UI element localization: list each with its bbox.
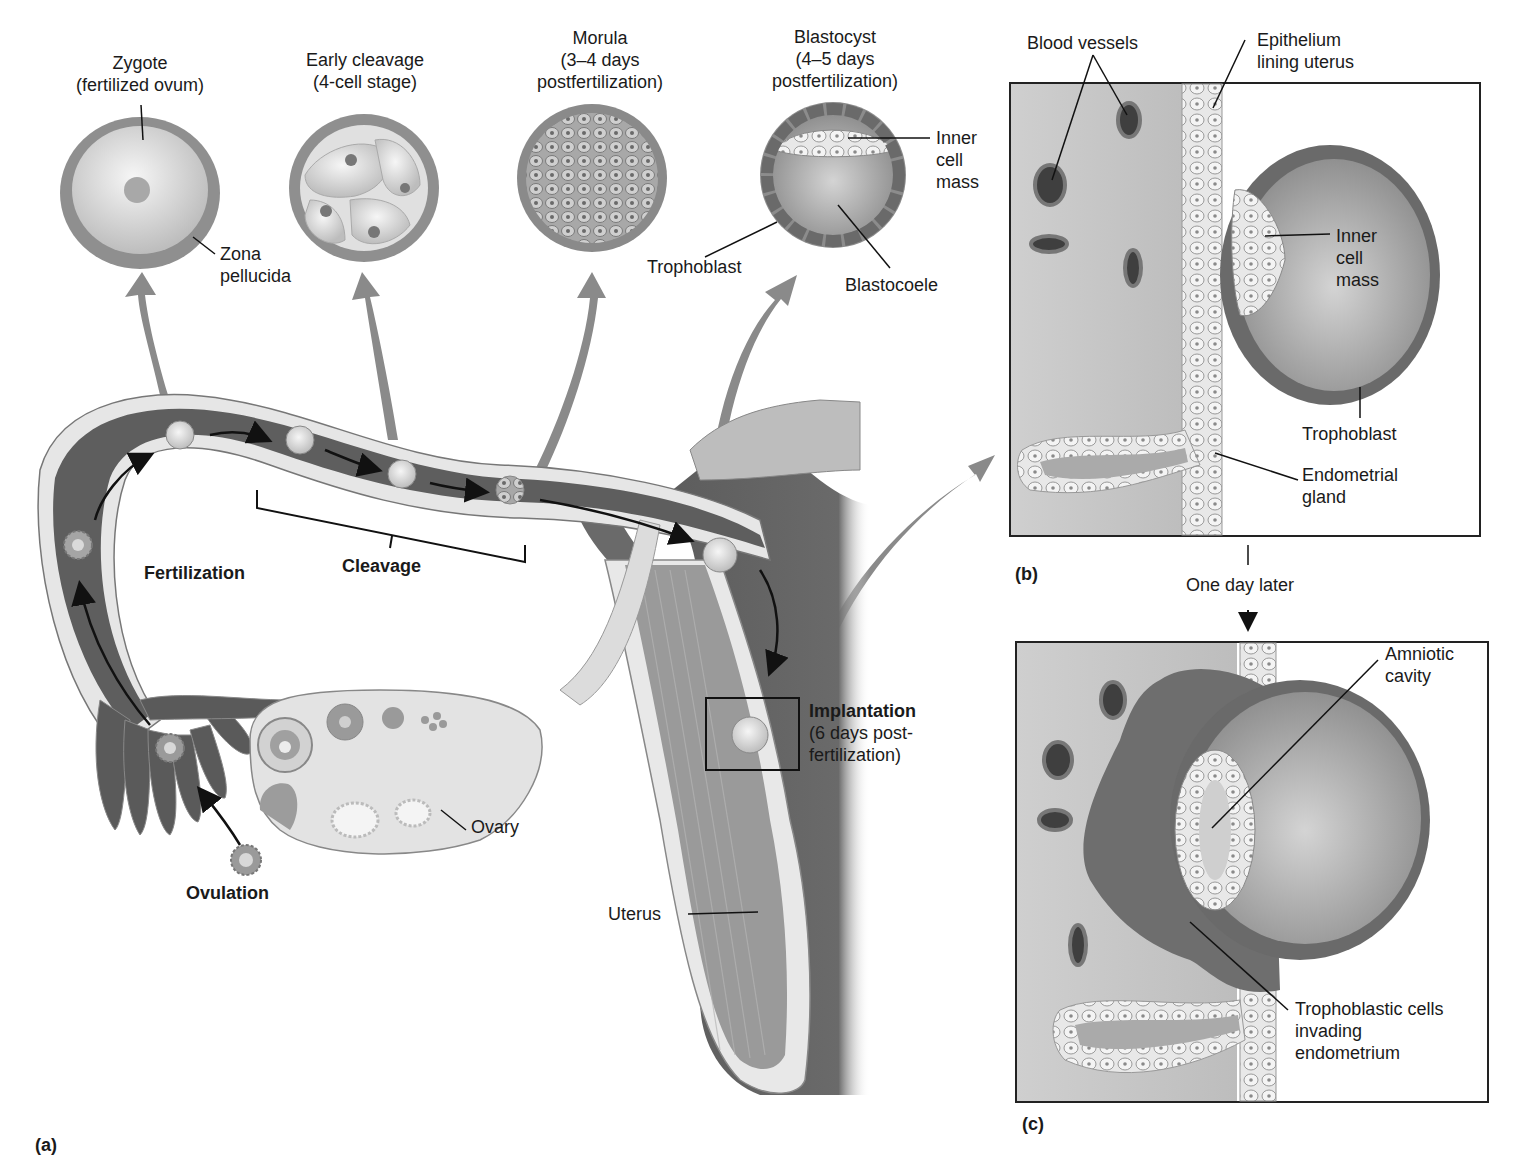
- cleavage-label: Cleavage: [342, 555, 421, 577]
- uterus-label: Uterus: [608, 903, 661, 925]
- panel-label-b: (b): [1015, 563, 1038, 585]
- epithelium-label: Epithelium lining uterus: [1257, 29, 1354, 73]
- blastocyst-trophoblast-label: Trophoblast: [647, 256, 741, 278]
- fertilizing-oocyte: [64, 531, 92, 559]
- morula-title-text: Morula: [510, 27, 690, 49]
- morula-subtitle-2: postfertilization): [510, 71, 690, 93]
- ovary-label: Ovary: [471, 816, 519, 838]
- icm-line3: mass: [936, 171, 979, 193]
- panel-label-a: (a): [35, 1134, 57, 1156]
- ovulated-oocyte: [231, 845, 261, 875]
- blastocoele-label: Blastocoele: [845, 274, 938, 296]
- b-icm-line1: Inner: [1336, 225, 1379, 247]
- amniotic-line1: Amniotic: [1385, 643, 1454, 665]
- blastocyst: [760, 102, 906, 248]
- implantation-sub2: fertilization): [809, 744, 916, 766]
- gland-line2: gland: [1302, 486, 1398, 508]
- amniotic-cavity-label: Amniotic cavity: [1385, 643, 1454, 687]
- panel-label-c: (c): [1022, 1113, 1044, 1135]
- early-cleavage-4cell: [289, 114, 439, 262]
- blood-vessels-label: Blood vessels: [1027, 32, 1138, 54]
- morula-subtitle: (3–4 days: [510, 49, 690, 71]
- endometrial-gland-label: Endometrial gland: [1302, 464, 1398, 508]
- panel-b-inner-cell-mass-label: Inner cell mass: [1336, 225, 1379, 291]
- epithelium-line1: Epithelium: [1257, 29, 1354, 51]
- ovulation-label: Ovulation: [186, 882, 269, 904]
- panel-b-trophoblast-label: Trophoblast: [1302, 423, 1396, 445]
- zona-pellucida-label: Zona pellucida: [220, 243, 291, 287]
- one-day-later-label: One day later: [1186, 574, 1294, 596]
- troph-line3: endometrium: [1295, 1042, 1443, 1064]
- b-icm-line2: cell: [1336, 247, 1379, 269]
- troph-line2: invading: [1295, 1020, 1443, 1042]
- blastocyst-title-text: Blastocyst: [745, 26, 925, 48]
- blastocyst-subtitle: (4–5 days: [745, 48, 925, 70]
- trophoblastic-cells-label: Trophoblastic cells invading endometrium: [1295, 998, 1443, 1064]
- fertilization-label: Fertilization: [144, 562, 245, 584]
- early-cleavage-subtitle: (4-cell stage): [280, 71, 450, 93]
- morula-title: Morula (3–4 days postfertilization): [510, 27, 690, 93]
- morula: [517, 104, 667, 252]
- zygote-subtitle: (fertilized ovum): [60, 74, 220, 96]
- blastocyst-subtitle-2: postfertilization): [745, 70, 925, 92]
- amniotic-line2: cavity: [1385, 665, 1454, 687]
- implantation-label: Implantation (6 days post- fertilization…: [809, 700, 916, 766]
- zona-label-line2: pellucida: [220, 265, 291, 287]
- icm-line1: Inner: [936, 127, 979, 149]
- panel-b-drawing: [1010, 83, 1480, 536]
- implantation-sub1: (6 days post-: [809, 722, 916, 744]
- zygote-title-text: Zygote: [60, 52, 220, 74]
- icm-line2: cell: [936, 149, 979, 171]
- zygote: [60, 117, 220, 269]
- oocyte-in-fimbriae: [156, 734, 184, 762]
- early-cleavage-title: Early cleavage (4-cell stage): [280, 49, 450, 93]
- gland-line1: Endometrial: [1302, 464, 1398, 486]
- early-cleavage-title-text: Early cleavage: [280, 49, 450, 71]
- zygote-title: Zygote (fertilized ovum): [60, 52, 220, 96]
- troph-line1: Trophoblastic cells: [1295, 998, 1443, 1020]
- b-icm-line3: mass: [1336, 269, 1379, 291]
- zona-label-line1: Zona: [220, 243, 291, 265]
- epithelium-line2: lining uterus: [1257, 51, 1354, 73]
- implantation-title: Implantation: [809, 700, 916, 722]
- blastocyst-title: Blastocyst (4–5 days postfertilization): [745, 26, 925, 92]
- blastocyst-inner-cell-mass-label: Inner cell mass: [936, 127, 979, 193]
